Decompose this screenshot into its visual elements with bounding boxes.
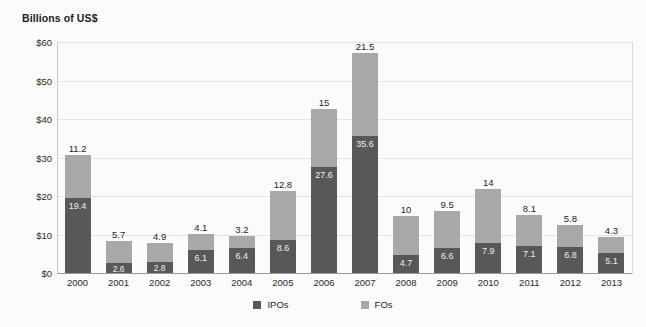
bar-segment-ipo[interactable]: 19.4 [65, 198, 91, 273]
x-axis-tick-label: 2012 [550, 277, 591, 288]
bar-segment-ipo[interactable]: 27.6 [311, 167, 337, 273]
bar-value-label-ipo: 7.1 [516, 249, 542, 259]
bar-value-label-fo: 4.9 [141, 231, 179, 242]
bar-stack: 11.219.4 [65, 155, 91, 273]
legend-label: FOs [375, 299, 393, 310]
bar-stack: 104.7 [393, 216, 419, 273]
legend-label: IPOs [267, 299, 288, 310]
y-axis-tick-label: $30 [6, 152, 52, 163]
bar-value-label-fo: 4.3 [592, 225, 630, 236]
bar-segment-ipo[interactable]: 7.1 [516, 246, 542, 273]
bar-value-label-fo: 21.5 [346, 41, 384, 52]
bar-segment-fo[interactable]: 14 [475, 189, 501, 243]
bar-segment-fo[interactable]: 5.7 [106, 241, 132, 263]
x-axis-tick-label: 2010 [468, 277, 509, 288]
bar-segment-ipo[interactable]: 5.1 [598, 253, 624, 273]
x-axis-tick-label: 2001 [98, 277, 139, 288]
legend-item[interactable]: FOs [361, 299, 393, 310]
bar-value-label-fo: 5.7 [100, 229, 138, 240]
bar-segment-fo[interactable]: 4.9 [147, 243, 173, 262]
bar-segment-fo[interactable]: 3.2 [229, 236, 255, 248]
bar-group[interactable]: 4.92.8 [147, 42, 173, 273]
bar-stack: 4.92.8 [147, 243, 173, 273]
y-axis-tick-label: $50 [6, 75, 52, 86]
bar-value-label-fo: 3.2 [223, 224, 261, 235]
bar-group[interactable]: 12.88.6 [270, 42, 296, 273]
bar-value-label-ipo: 8.6 [270, 243, 296, 253]
bar-stack: 9.56.6 [434, 211, 460, 273]
bar-segment-fo[interactable]: 9.5 [434, 211, 460, 248]
bar-group[interactable]: 4.35.1 [598, 42, 624, 273]
bar-segment-ipo[interactable]: 2.8 [147, 262, 173, 273]
bar-value-label-ipo: 35.6 [352, 139, 378, 149]
y-axis: $60$50$40$30$20$10$0 [0, 42, 52, 273]
bar-value-label-ipo: 2.6 [106, 264, 132, 274]
bar-stack: 8.17.1 [516, 215, 542, 274]
bar-group[interactable]: 8.17.1 [516, 42, 542, 273]
chart-container: Billions of US$ $60$50$40$30$20$10$0 11.… [0, 0, 646, 327]
bar-segment-ipo[interactable]: 4.7 [393, 255, 419, 273]
bar-stack: 21.535.6 [352, 53, 378, 273]
x-axis-tick-label: 2008 [386, 277, 427, 288]
bar-segment-ipo[interactable]: 6.4 [229, 248, 255, 273]
x-axis-tick-label: 2013 [591, 277, 632, 288]
bar-segment-fo[interactable]: 8.1 [516, 215, 542, 246]
bar-value-label-ipo: 2.8 [147, 263, 173, 273]
bar-group[interactable]: 5.86.8 [557, 42, 583, 273]
bar-group[interactable]: 1527.6 [311, 42, 337, 273]
bar-segment-ipo[interactable]: 7.9 [475, 243, 501, 273]
bar-group[interactable]: 11.219.4 [65, 42, 91, 273]
bar-value-label-fo: 12.8 [264, 179, 302, 190]
bar-value-label-fo: 9.5 [428, 199, 466, 210]
bar-group[interactable]: 9.56.6 [434, 42, 460, 273]
y-axis-tick-label: $60 [6, 37, 52, 48]
bar-value-label-ipo: 19.4 [65, 201, 91, 211]
bar-group[interactable]: 5.72.6 [106, 42, 132, 273]
bar-value-label-fo: 14 [469, 177, 507, 188]
bar-group[interactable]: 3.26.4 [229, 42, 255, 273]
bar-value-label-ipo: 6.8 [557, 250, 583, 260]
bar-value-label-ipo: 7.9 [475, 246, 501, 256]
bar-stack: 4.16.1 [188, 234, 214, 273]
bar-stack: 5.72.6 [106, 241, 132, 273]
bar-group[interactable]: 104.7 [393, 42, 419, 273]
bar-segment-fo[interactable]: 11.2 [65, 155, 91, 198]
bar-group[interactable]: 4.16.1 [188, 42, 214, 273]
bar-stack: 5.86.8 [557, 225, 583, 274]
bar-segment-fo[interactable]: 5.8 [557, 225, 583, 247]
bar-value-label-ipo: 5.1 [598, 256, 624, 266]
bar-segment-ipo[interactable]: 35.6 [352, 136, 378, 273]
bar-segment-ipo[interactable]: 6.8 [557, 247, 583, 273]
bar-group[interactable]: 21.535.6 [352, 42, 378, 273]
bar-segment-ipo[interactable]: 6.6 [434, 248, 460, 273]
bar-value-label-ipo: 6.6 [434, 251, 460, 261]
x-axis-tick-label: 2003 [180, 277, 221, 288]
x-axis-tick-label: 2004 [221, 277, 262, 288]
bar-value-label-fo: 8.1 [510, 203, 548, 214]
bar-value-label-ipo: 6.4 [229, 251, 255, 261]
bar-segment-fo[interactable]: 4.3 [598, 237, 624, 254]
x-axis-tick-label: 2000 [57, 277, 98, 288]
y-axis-tick-label: $20 [6, 191, 52, 202]
x-axis-tick-label: 2007 [345, 277, 386, 288]
bar-group[interactable]: 147.9 [475, 42, 501, 273]
bar-stack: 147.9 [475, 189, 501, 273]
legend-item[interactable]: IPOs [253, 299, 288, 310]
bar-segment-fo[interactable]: 10 [393, 216, 419, 255]
bar-segment-ipo[interactable]: 2.6 [106, 263, 132, 273]
bars-layer: 11.219.45.72.64.92.84.16.13.26.412.88.61… [57, 42, 632, 273]
bar-segment-fo[interactable]: 12.8 [270, 191, 296, 240]
x-axis-tick-label: 2005 [262, 277, 303, 288]
bar-segment-fo[interactable]: 15 [311, 109, 337, 167]
bar-value-label-ipo: 27.6 [311, 170, 337, 180]
bar-value-label-fo: 5.8 [551, 213, 589, 224]
bar-segment-fo[interactable]: 21.5 [352, 53, 378, 136]
bar-segment-ipo[interactable]: 8.6 [270, 240, 296, 273]
x-axis-tick-label: 2009 [427, 277, 468, 288]
bar-segment-ipo[interactable]: 6.1 [188, 250, 214, 273]
chart-title: Billions of US$ [22, 12, 98, 24]
bar-value-label-fo: 4.1 [182, 222, 220, 233]
bar-segment-fo[interactable]: 4.1 [188, 234, 214, 250]
legend-swatch-icon [253, 301, 261, 309]
bar-value-label-fo: 15 [305, 97, 343, 108]
